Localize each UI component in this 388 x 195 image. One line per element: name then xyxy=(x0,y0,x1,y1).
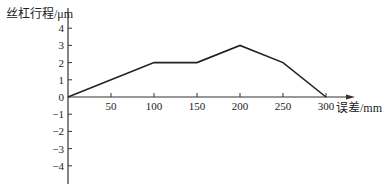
line-chart: 43210−1−2−3−4 50100150200250300 丝杠行程/μm … xyxy=(0,0,388,195)
data-series-line xyxy=(68,45,326,97)
y-tick-label: −2 xyxy=(52,125,64,137)
x-tick-label: 150 xyxy=(189,100,206,112)
x-tick-label: 300 xyxy=(318,100,335,112)
y-axis-label: 丝杠行程/μm xyxy=(6,6,74,21)
x-tick-label: 200 xyxy=(232,100,249,112)
y-tick-label: −4 xyxy=(52,160,64,172)
y-tick-label: 2 xyxy=(59,57,65,69)
x-tick-label: 100 xyxy=(146,100,163,112)
x-axis-arrow-icon xyxy=(346,95,355,100)
y-tick-label: 0 xyxy=(59,91,65,103)
y-tick-label: −3 xyxy=(52,143,64,155)
x-axis-ticks: 50100150200250300 xyxy=(106,93,335,112)
x-tick-label: 50 xyxy=(106,100,118,112)
x-axis-label: 误差/mm xyxy=(336,101,383,115)
x-tick-label: 250 xyxy=(275,100,292,112)
y-tick-label: 1 xyxy=(59,74,65,86)
y-tick-label: 4 xyxy=(59,22,65,34)
y-tick-label: 3 xyxy=(59,39,65,51)
y-tick-label: −1 xyxy=(52,108,64,120)
